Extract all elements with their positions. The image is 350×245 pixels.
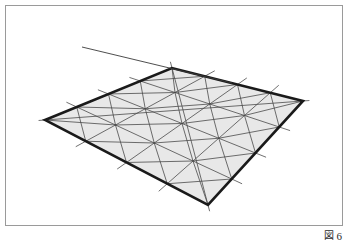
grid-overshoot-u-start xyxy=(118,163,127,169)
grid-overshoot-v-end xyxy=(232,179,242,184)
grid-overshoot-u-start xyxy=(76,141,86,146)
mesh-plate-diagram xyxy=(0,0,350,245)
figure-caption-label: 図 xyxy=(324,230,334,242)
figure-page: 図 6 xyxy=(0,0,350,245)
figure-caption-number: 6 xyxy=(337,230,343,242)
grid-overshoot-v-end xyxy=(256,153,266,157)
figure-caption: 図 6 xyxy=(324,229,343,243)
grid-overshoot-u-start xyxy=(159,184,167,191)
plate-fill xyxy=(45,68,303,205)
plate-fill-group xyxy=(45,68,303,205)
grid-overshoot-v-end xyxy=(279,127,289,130)
grid-overshoot-u-end xyxy=(270,85,278,92)
